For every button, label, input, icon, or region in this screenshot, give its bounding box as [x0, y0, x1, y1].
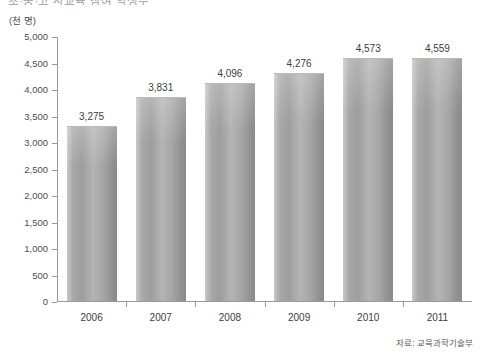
y-axis-tick-label: 4,000	[24, 85, 48, 95]
y-axis-tick-label: 2,500	[24, 165, 48, 175]
bar-slot: 4,0962008	[195, 37, 264, 302]
y-axis-tick-label: 2,000	[24, 191, 48, 201]
bar-2006[interactable]: 3,275	[67, 126, 117, 301]
x-axis-tick	[126, 302, 127, 307]
bar-value-label: 3,275	[79, 112, 104, 122]
bar-2007[interactable]: 3,831	[136, 97, 186, 301]
y-axis-unit-label: (천 명)	[9, 13, 36, 27]
y-axis-tick-label: 3,000	[24, 138, 48, 148]
bar-slot: 4,5732010	[334, 37, 403, 302]
bar-2009[interactable]: 4,276	[274, 73, 324, 301]
bar-slot: 3,8312007	[126, 37, 195, 302]
y-axis-tick	[52, 302, 57, 303]
source-note: 자료: 교육과학기술부	[396, 336, 473, 348]
y-axis-tick-label: 4,500	[24, 59, 48, 69]
chart-screenshot: 초·중·고 사교육 참여 학생수 (천 명) 5,0004,5004,0003,…	[0, 0, 484, 355]
y-axis-tick-label: 1,500	[24, 218, 48, 228]
x-axis-tick	[265, 302, 266, 307]
plot-area: 5,0004,5004,0003,5003,0002,5002,0001,500…	[57, 37, 472, 302]
bar-value-label: 3,831	[148, 83, 173, 93]
y-axis-tick-label: 0	[43, 297, 48, 307]
x-axis-tick	[334, 302, 335, 307]
chart-title-clipped: 초·중·고 사교육 참여 학생수	[8, 0, 308, 5]
y-axis-tick-label: 1,000	[24, 244, 48, 254]
page-title: 초·중·고 사교육 참여 학생수	[8, 0, 149, 5]
bar-slot: 3,2752006	[57, 37, 126, 302]
x-axis-tick	[195, 302, 196, 307]
bar-value-label: 4,096	[217, 69, 242, 79]
bar-value-label: 4,276	[287, 59, 312, 69]
y-axis-tick-label: 500	[32, 271, 48, 281]
bar-value-label: 4,573	[356, 44, 381, 54]
y-axis-tick-label: 3,500	[24, 112, 48, 122]
bar-2011[interactable]: 4,559	[412, 58, 462, 301]
x-axis-tick	[403, 302, 404, 307]
bar-slot: 4,5592011	[403, 37, 472, 302]
bar-2008[interactable]: 4,096	[205, 83, 255, 301]
y-axis-tick-label: 5,000	[24, 32, 48, 42]
bar-value-label: 4,559	[425, 44, 450, 54]
bar-2010[interactable]: 4,573	[343, 58, 393, 301]
bar-slot: 4,2762009	[265, 37, 334, 302]
